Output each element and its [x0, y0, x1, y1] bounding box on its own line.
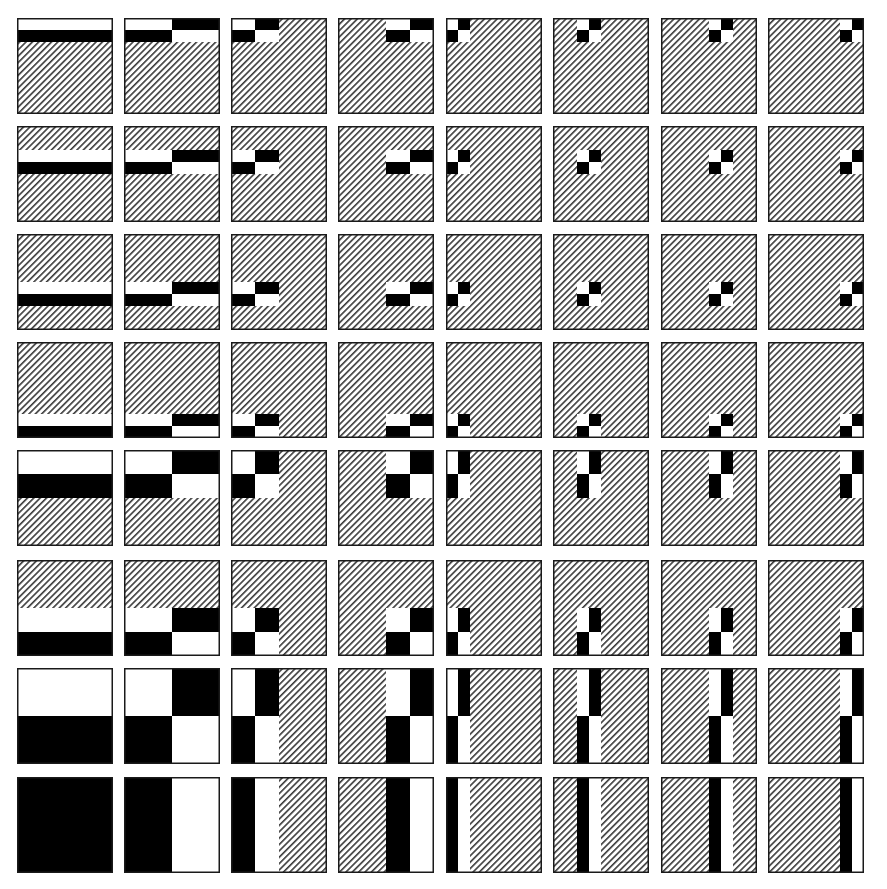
basis-tile-r3-c4: [446, 342, 542, 438]
basis-tile-r4-c3: [338, 450, 434, 546]
basis-tile-r2-c6: [661, 234, 757, 330]
basis-tile-r7-c2: [231, 777, 327, 873]
basis-tile-r4-c2: [231, 450, 327, 546]
basis-tile-r0-c5: [553, 18, 649, 114]
basis-tile-r5-c7: [768, 560, 864, 656]
basis-tile-r7-c6: [661, 777, 757, 873]
basis-tile-r3-c2: [231, 342, 327, 438]
basis-tile-r7-c0: [17, 777, 113, 873]
basis-tile-r6-c4: [446, 668, 542, 764]
basis-tile-r7-c7: [768, 777, 864, 873]
basis-tile-r5-c6: [661, 560, 757, 656]
haar-basis-grid: [0, 0, 887, 889]
basis-tile-r0-c1: [124, 18, 220, 114]
basis-tile-r5-c3: [338, 560, 434, 656]
basis-tile-r1-c0: [17, 126, 113, 222]
basis-tile-r2-c7: [768, 234, 864, 330]
basis-tile-r7-c1: [124, 777, 220, 873]
basis-tile-r6-c6: [661, 668, 757, 764]
basis-tile-r1-c4: [446, 126, 542, 222]
basis-tile-r6-c1: [124, 668, 220, 764]
basis-tile-r6-c2: [231, 668, 327, 764]
basis-tile-r2-c1: [124, 234, 220, 330]
basis-tile-r1-c2: [231, 126, 327, 222]
basis-tile-r6-c7: [768, 668, 864, 764]
basis-tile-r0-c4: [446, 18, 542, 114]
basis-tile-r4-c1: [124, 450, 220, 546]
basis-tile-r2-c3: [338, 234, 434, 330]
basis-tile-r4-c0: [17, 450, 113, 546]
basis-tile-r6-c3: [338, 668, 434, 764]
basis-tile-r4-c7: [768, 450, 864, 546]
basis-tile-r5-c1: [124, 560, 220, 656]
basis-tile-r4-c5: [553, 450, 649, 546]
basis-tile-r3-c6: [661, 342, 757, 438]
basis-tile-r1-c6: [661, 126, 757, 222]
basis-tile-r7-c3: [338, 777, 434, 873]
basis-tile-r1-c3: [338, 126, 434, 222]
basis-tile-r6-c5: [553, 668, 649, 764]
basis-tile-r3-c5: [553, 342, 649, 438]
basis-tile-r0-c2: [231, 18, 327, 114]
basis-tile-r3-c1: [124, 342, 220, 438]
basis-tile-r3-c3: [338, 342, 434, 438]
basis-tile-r0-c3: [338, 18, 434, 114]
basis-tile-r5-c2: [231, 560, 327, 656]
basis-tile-r0-c6: [661, 18, 757, 114]
basis-tile-r3-c0: [17, 342, 113, 438]
basis-tile-r0-c0: [17, 18, 113, 114]
basis-tile-r2-c5: [553, 234, 649, 330]
basis-tile-r4-c6: [661, 450, 757, 546]
basis-tile-r2-c0: [17, 234, 113, 330]
basis-tile-r3-c7: [768, 342, 864, 438]
basis-tile-r6-c0: [17, 668, 113, 764]
basis-tile-r2-c2: [231, 234, 327, 330]
basis-tile-r7-c5: [553, 777, 649, 873]
basis-tile-r1-c7: [768, 126, 864, 222]
basis-tile-r2-c4: [446, 234, 542, 330]
basis-tile-r5-c4: [446, 560, 542, 656]
basis-tile-r7-c4: [446, 777, 542, 873]
basis-tile-r0-c7: [768, 18, 864, 114]
basis-tile-r1-c5: [553, 126, 649, 222]
basis-tile-r5-c5: [553, 560, 649, 656]
basis-tile-r5-c0: [17, 560, 113, 656]
basis-tile-r1-c1: [124, 126, 220, 222]
basis-tile-r4-c4: [446, 450, 542, 546]
